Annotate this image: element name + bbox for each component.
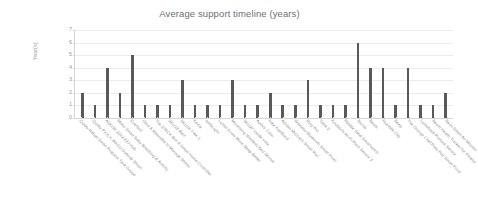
- bar-slot: [264, 30, 277, 118]
- bar-slot: [114, 30, 127, 118]
- bar-slot: [189, 30, 202, 118]
- bar-slot: [352, 30, 365, 118]
- y-axis-tick-label: 0: [69, 115, 72, 121]
- bar-slot: [126, 30, 139, 118]
- bar[interactable]: [81, 93, 84, 118]
- bar-series: [75, 30, 453, 118]
- bar[interactable]: [106, 68, 109, 118]
- bar[interactable]: [307, 80, 310, 118]
- y-axis-tick-label: 6: [69, 40, 72, 46]
- bar-slot: [214, 30, 227, 118]
- bar-slot: [251, 30, 264, 118]
- y-axis-title: Year(s): [32, 42, 38, 60]
- y-axis-tick-label: 1: [69, 103, 72, 109]
- bar-slot: [139, 30, 152, 118]
- bar-slot: [226, 30, 239, 118]
- bar[interactable]: [444, 93, 447, 118]
- bar[interactable]: [269, 93, 272, 118]
- bar[interactable]: [369, 68, 372, 118]
- bar[interactable]: [407, 68, 410, 118]
- bar-slot: [151, 30, 164, 118]
- bar-slot: [201, 30, 214, 118]
- chart-title: Average support timeline (years): [0, 8, 459, 19]
- y-axis-tick-label: 4: [69, 65, 72, 71]
- y-axis-tick-label: 2: [69, 90, 72, 96]
- y-axis-tick-label: 5: [69, 52, 72, 58]
- bar[interactable]: [357, 43, 360, 118]
- bar-slot: [164, 30, 177, 118]
- bar-slot: [389, 30, 402, 118]
- bar-slot: [339, 30, 352, 118]
- bar[interactable]: [382, 68, 385, 118]
- bar-slot: [89, 30, 102, 118]
- plot-area: [74, 30, 453, 119]
- bar-slot: [76, 30, 89, 118]
- bar-slot: [427, 30, 440, 118]
- y-axis-tick-label: 7: [69, 27, 72, 33]
- x-axis-tick-label: Beats: [368, 119, 378, 129]
- bar-slot: [402, 30, 415, 118]
- bar-slot: [277, 30, 290, 118]
- bar-slot: [327, 30, 340, 118]
- bar-slot: [101, 30, 114, 118]
- bar-slot: [302, 30, 315, 118]
- bar[interactable]: [181, 80, 184, 118]
- y-axis-tick-labels: 01234567: [60, 30, 72, 118]
- bar-slot: [439, 30, 452, 118]
- bar-slot: [176, 30, 189, 118]
- x-axis-tick-labels: Quirky Refuel Smart Propane Tank GaugeQu…: [74, 119, 452, 215]
- bar-slot: [239, 30, 252, 118]
- bar[interactable]: [131, 55, 134, 118]
- y-axis-tick-label: 3: [69, 78, 72, 84]
- bar[interactable]: [119, 93, 122, 118]
- bar-slot: [364, 30, 377, 118]
- bar[interactable]: [231, 80, 234, 118]
- bar-slot: [289, 30, 302, 118]
- x-axis-tick-label: Beep: [393, 119, 403, 129]
- bar-slot: [377, 30, 390, 118]
- bar-slot: [314, 30, 327, 118]
- bar-slot: [414, 30, 427, 118]
